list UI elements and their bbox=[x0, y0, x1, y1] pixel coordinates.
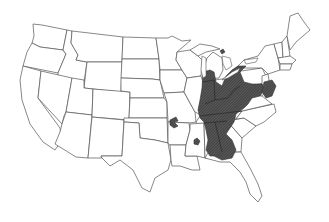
state-connecticut bbox=[280, 64, 292, 70]
state-south-dakota bbox=[121, 59, 160, 80]
state-outlines bbox=[20, 13, 310, 202]
state-kansas bbox=[129, 98, 167, 118]
range-michigan-spot bbox=[220, 49, 225, 54]
state-maine bbox=[287, 13, 310, 50]
state-florida bbox=[205, 152, 262, 202]
lake-huron bbox=[222, 56, 232, 70]
state-wyoming bbox=[84, 62, 122, 92]
state-new-mexico bbox=[88, 117, 124, 158]
state-iowa bbox=[160, 70, 187, 93]
state-massachusetts bbox=[278, 56, 296, 64]
state-montana bbox=[71, 31, 123, 62]
range-maryland bbox=[262, 80, 276, 98]
us-range-map bbox=[0, 0, 329, 222]
lake-michigan bbox=[201, 56, 206, 78]
map-canvas bbox=[0, 0, 329, 222]
state-north-dakota bbox=[122, 37, 159, 59]
state-colorado bbox=[92, 89, 130, 120]
